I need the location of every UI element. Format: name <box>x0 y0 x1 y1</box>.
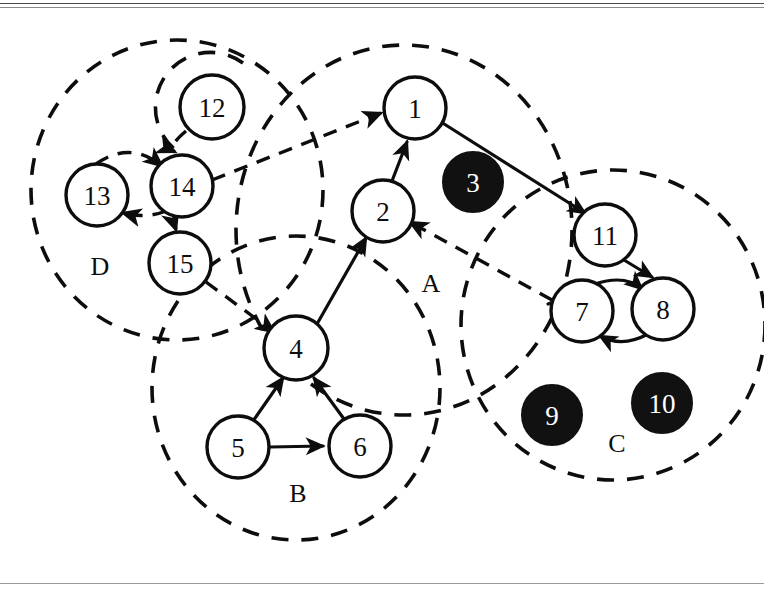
edges-dashed <box>96 113 552 332</box>
node-8-label: 8 <box>656 295 670 325</box>
node-9-label: 9 <box>545 401 559 431</box>
scan-artifact-line-bottom <box>0 583 764 584</box>
node-11[interactable]: 11 <box>574 204 636 266</box>
node-3-label: 3 <box>466 168 480 198</box>
edge-dashed-14-to-13 <box>123 211 166 216</box>
edge-solid-8-to-7 <box>600 334 648 342</box>
node-8[interactable]: 8 <box>632 278 694 340</box>
edge-solid-5-to-6 <box>270 446 323 447</box>
edge-dashed-14-to-15 <box>175 218 176 230</box>
node-15-label: 15 <box>167 249 194 279</box>
edge-solid-11-to-8 <box>624 260 652 277</box>
scan-artifact-line-top-secondary <box>0 7 764 8</box>
node-11-label: 11 <box>592 221 618 251</box>
node-7[interactable]: 7 <box>551 280 613 342</box>
cluster-label-A: A <box>422 269 441 298</box>
node-5-label: 5 <box>231 433 245 463</box>
node-12[interactable]: 12 <box>180 75 244 139</box>
edge-solid-5-to-4 <box>253 378 283 421</box>
scan-artifact-line-top <box>0 3 764 4</box>
node-1-label: 1 <box>408 94 422 124</box>
node-14-label: 14 <box>169 172 197 202</box>
diagram-canvas: 1 2 3 4 5 6 <box>0 0 764 590</box>
edge-dashed-12-to-14 <box>172 131 186 152</box>
node-14[interactable]: 14 <box>151 155 213 217</box>
nodes: 1 2 3 4 5 6 <box>66 75 694 478</box>
node-4[interactable]: 4 <box>264 316 328 380</box>
node-7-label: 7 <box>575 297 589 327</box>
edge-solid-4-to-2 <box>317 238 366 324</box>
node-2[interactable]: 2 <box>352 180 414 242</box>
node-3[interactable]: 3 <box>443 152 503 212</box>
node-9[interactable]: 9 <box>522 385 582 445</box>
node-1[interactable]: 1 <box>384 77 446 139</box>
node-10-label: 10 <box>649 389 676 419</box>
node-5[interactable]: 5 <box>207 416 269 478</box>
node-4-label: 4 <box>289 334 303 364</box>
node-2-label: 2 <box>376 197 390 227</box>
node-6-label: 6 <box>353 432 367 462</box>
node-13[interactable]: 13 <box>66 164 128 226</box>
node-6[interactable]: 6 <box>329 415 391 477</box>
cluster-label-D: D <box>91 252 110 281</box>
cluster-label-C: C <box>608 429 625 458</box>
cluster-label-B: B <box>289 479 306 508</box>
edge-solid-2-to-1 <box>392 142 407 181</box>
edge-solid-6-to-4 <box>314 378 344 419</box>
node-12-label: 12 <box>199 93 226 123</box>
node-10[interactable]: 10 <box>632 373 692 433</box>
node-15[interactable]: 15 <box>149 232 211 294</box>
node-13-label: 13 <box>84 181 111 211</box>
graph-figure: 1 2 3 4 5 6 <box>0 0 764 590</box>
